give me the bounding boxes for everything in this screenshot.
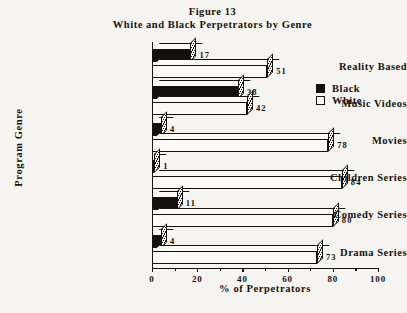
bar-white: 51 — [152, 59, 274, 79]
x-tick-major — [152, 268, 153, 272]
x-tick-minor — [310, 268, 311, 271]
x-tick-label: 20 — [192, 274, 203, 284]
bar-side-face — [190, 37, 196, 62]
legend-label: Black — [332, 83, 360, 94]
x-tick-major — [197, 268, 198, 272]
x-tick-major — [378, 268, 379, 272]
category-label-movies: Movies — [261, 135, 407, 146]
bar-side-face — [247, 90, 253, 115]
chart-title: Figure 13 White and Black Perpetrators b… — [0, 5, 407, 31]
category-label-drama-series: Drama Series — [261, 247, 407, 258]
black-swatch — [316, 84, 325, 93]
bar-white: 42 — [152, 96, 254, 116]
x-tick-label: 100 — [370, 274, 386, 284]
bar-side-face — [238, 74, 244, 99]
category-label-children-series: Children Series — [261, 172, 407, 183]
x-tick-major — [288, 268, 289, 272]
y-axis-title: Program Genre — [13, 88, 24, 208]
x-tick-minor — [355, 268, 356, 271]
x-tick-minor — [175, 268, 176, 271]
x-tick-major — [242, 268, 243, 272]
legend-item-black: Black — [316, 82, 362, 94]
legend-label: White — [332, 95, 362, 106]
x-tick-label: 60 — [282, 274, 293, 284]
x-tick-label: 40 — [237, 274, 248, 284]
x-tick-major — [333, 268, 334, 272]
figure-number: Figure 13 — [0, 5, 407, 18]
category-label-comedy-series: Comedy Series — [261, 209, 407, 220]
category-label-reality-based: Reality Based — [261, 61, 407, 72]
x-axis-title: % of Perpetrators — [152, 283, 378, 294]
legend: BlackWhite — [316, 82, 362, 106]
x-tick-label: 0 — [149, 274, 154, 284]
legend-item-white: White — [316, 94, 362, 106]
bar-side-face — [161, 223, 167, 248]
x-tick-minor — [265, 268, 266, 271]
x-tick-label: 80 — [327, 274, 338, 284]
x-tick-minor — [220, 268, 221, 271]
figure-13-chart: Figure 13 White and Black Perpetrators b… — [0, 0, 407, 313]
plot-area: 020406080100 175138424781841180473 — [152, 42, 378, 268]
bar-front-face — [152, 65, 267, 78]
chart-title-text: White and Black Perpetrators by Genre — [0, 18, 407, 31]
white-swatch — [316, 96, 325, 105]
bar-side-face — [177, 186, 183, 211]
